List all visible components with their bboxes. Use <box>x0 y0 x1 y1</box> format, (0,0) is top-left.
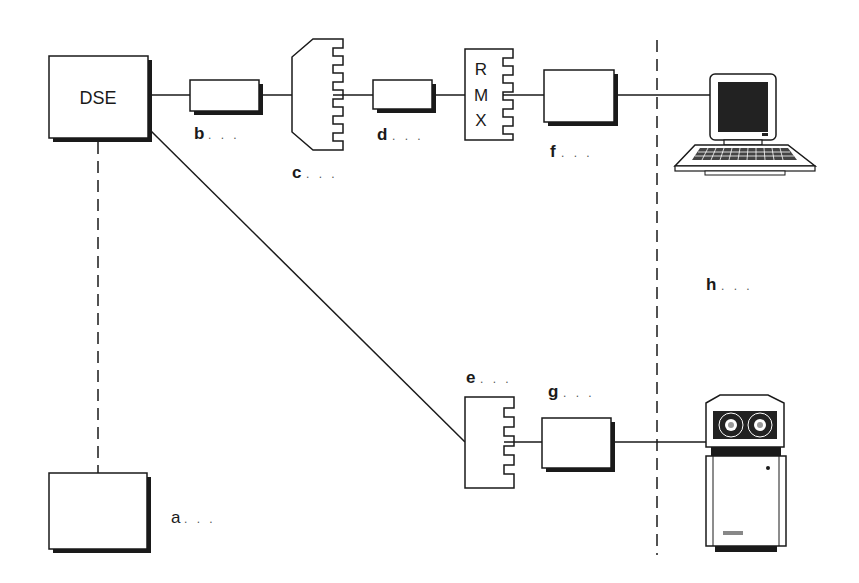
svg-text:h: h <box>706 275 716 294</box>
svg-text:. . .: . . . <box>480 372 512 386</box>
svg-text:e: e <box>466 368 475 387</box>
node-a <box>49 473 151 553</box>
rmx-letter-r: R <box>475 60 487 79</box>
dse-node: DSE <box>49 56 152 142</box>
svg-text:. . .: . . . <box>392 129 424 143</box>
dse-label: DSE <box>79 88 116 108</box>
network-diagram: DSE R M X <box>0 0 859 583</box>
node-g <box>542 418 615 472</box>
svg-text:a: a <box>171 508 181 527</box>
rmx-letter-m: M <box>474 86 488 105</box>
tape-drive-unit-icon <box>706 395 786 552</box>
label-h: h . . . <box>706 275 753 294</box>
svg-text:. . .: . . . <box>184 512 216 526</box>
svg-text:. . .: . . . <box>306 167 338 181</box>
node-d <box>373 80 436 113</box>
svg-text:. . .: . . . <box>561 146 593 160</box>
rmx-letter-x: X <box>475 111 486 130</box>
label-d: d . . . <box>377 125 424 144</box>
label-a: a . . . <box>171 508 216 527</box>
svg-text:f: f <box>550 142 556 161</box>
svg-text:c: c <box>292 163 301 182</box>
svg-text:g: g <box>548 382 558 401</box>
label-f: f . . . <box>550 142 593 161</box>
label-g: g . . . <box>548 382 595 401</box>
svg-text:. . .: . . . <box>721 279 753 293</box>
node-f <box>544 70 618 126</box>
computer-terminal-icon <box>675 74 815 175</box>
label-e: e . . . <box>466 368 512 387</box>
label-c: c . . . <box>292 163 338 182</box>
svg-text:b: b <box>194 124 204 143</box>
svg-text:. . .: . . . <box>208 128 240 142</box>
node-b <box>190 80 263 115</box>
svg-text:. . .: . . . <box>563 386 595 400</box>
label-b: b . . . <box>194 124 240 143</box>
svg-text:d: d <box>377 125 387 144</box>
